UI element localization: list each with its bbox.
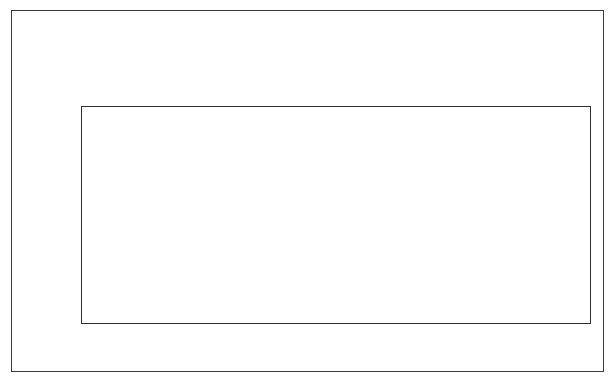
- plot-area: [81, 106, 591, 324]
- chart-figure: [11, 10, 604, 372]
- category-axis: [12, 106, 77, 324]
- bar-series: [82, 107, 590, 323]
